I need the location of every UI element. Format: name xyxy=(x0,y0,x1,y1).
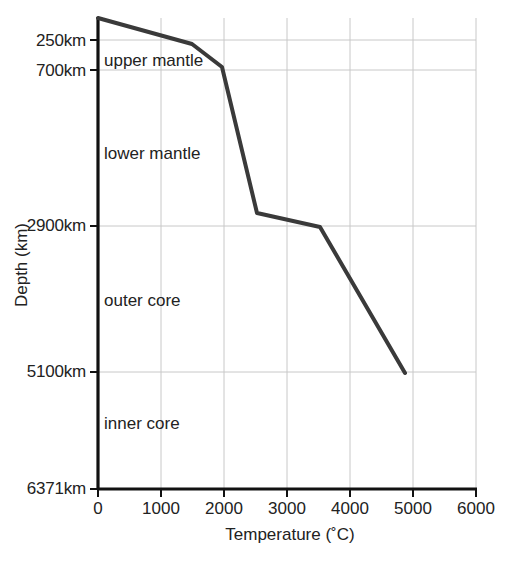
gridlines-vertical xyxy=(161,18,476,489)
annotation-upper-mantle: upper mantle xyxy=(104,51,203,71)
xtick-label-0: 0 xyxy=(78,499,118,519)
ytick-label-5100: 5100km xyxy=(0,362,86,382)
xtick-label-3000: 3000 xyxy=(257,499,317,519)
xtick-label-2000: 2000 xyxy=(194,499,254,519)
annotation-lower-mantle: lower mantle xyxy=(104,144,200,164)
annotation-outer-core: outer core xyxy=(104,291,181,311)
annotation-inner-core: inner core xyxy=(104,414,180,434)
ytick-label-700: 700km xyxy=(0,61,86,81)
xtick-label-4000: 4000 xyxy=(320,499,380,519)
ytick-label-250: 250km xyxy=(0,31,86,51)
xtick-label-5000: 5000 xyxy=(383,499,443,519)
geotherm-line xyxy=(98,18,405,373)
temperature-depth-chart: 250km 700km 2900km 5100km 6371km 0 1000 … xyxy=(0,0,510,572)
y-axis-title: Depth (km) xyxy=(12,205,32,325)
x-axis-title: Temperature (˚C) xyxy=(160,525,420,545)
xtick-label-6000: 6000 xyxy=(446,499,506,519)
ytick-label-6371: 6371km xyxy=(0,479,86,499)
xtick-label-1000: 1000 xyxy=(131,499,191,519)
